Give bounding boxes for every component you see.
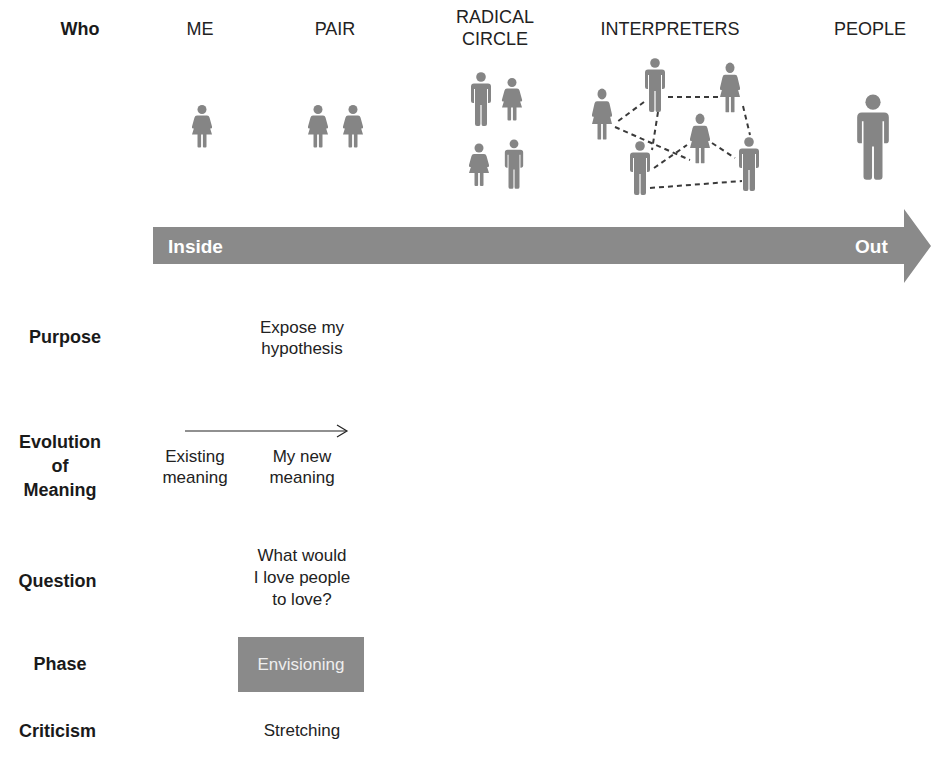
purpose-value: Expose my hypothesis — [232, 317, 372, 359]
criticism-value: Stretching — [232, 720, 372, 741]
man-icon — [469, 71, 493, 127]
evolution-label-line2: of — [5, 454, 115, 478]
existing-meaning-line2: meaning — [145, 467, 245, 488]
phase-value: Envisioning — [258, 655, 345, 675]
existing-meaning-text: Existing meaning — [145, 446, 245, 488]
column-header-radical-line1: RADICAL — [440, 6, 550, 28]
person-large-icon — [854, 86, 892, 188]
phase-badge-envisioning: Envisioning — [238, 637, 364, 692]
column-header-radical-circle: RADICAL CIRCLE — [440, 6, 550, 50]
question-line2: I love people — [232, 567, 372, 589]
purpose-line1: Expose my — [232, 317, 372, 338]
purpose-line2: hypothesis — [232, 338, 372, 359]
new-meaning-line2: meaning — [252, 467, 352, 488]
arrow-label-inside: Inside — [168, 236, 223, 258]
row-label-purpose: Purpose — [10, 326, 120, 348]
evolution-label-line1: Evolution — [5, 430, 115, 454]
column-header-pair: PAIR — [295, 18, 375, 40]
arrow-label-out: Out — [855, 236, 888, 258]
man-icon — [503, 135, 525, 193]
column-header-interpreters: INTERPRETERS — [580, 18, 760, 40]
woman-icon — [500, 71, 524, 127]
row-label-evolution-of-meaning: Evolution of Meaning — [5, 430, 115, 502]
question-line1: What would — [232, 545, 372, 567]
column-header-radical-line2: CIRCLE — [440, 28, 550, 50]
inside-out-arrow — [153, 209, 931, 283]
question-line3: to love? — [232, 589, 372, 611]
row-label-question: Question — [0, 570, 115, 592]
column-header-people: PEOPLE — [815, 18, 925, 40]
evolution-label-line3: Meaning — [5, 478, 115, 502]
question-value: What would I love people to love? — [232, 545, 372, 611]
column-header-me: ME — [160, 18, 240, 40]
row-label-who: Who — [30, 18, 130, 40]
woman-icon — [341, 98, 365, 154]
row-label-criticism: Criticism — [0, 720, 115, 742]
existing-meaning-line1: Existing — [145, 446, 245, 467]
new-meaning-line1: My new — [252, 446, 352, 467]
woman-icon — [467, 136, 491, 193]
woman-icon — [306, 98, 330, 154]
row-label-phase: Phase — [10, 653, 110, 675]
woman-icon — [190, 98, 214, 154]
evolution-arrow-icon — [185, 424, 349, 438]
interpreters-network — [580, 50, 780, 205]
new-meaning-text: My new meaning — [252, 446, 352, 488]
